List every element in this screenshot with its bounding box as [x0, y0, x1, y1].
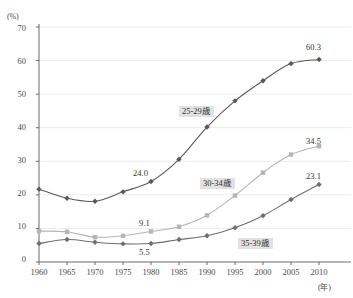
data-point [64, 237, 69, 242]
value-label-9-1: 9.1 [139, 219, 150, 228]
value-label-34-5: 34.5 [306, 137, 321, 146]
series-line-25-29歳 [39, 60, 319, 202]
data-point [177, 225, 181, 229]
data-point [204, 233, 209, 238]
data-point [316, 182, 321, 187]
data-point [64, 196, 69, 201]
value-label-60-3: 60.3 [306, 43, 321, 52]
chart-container: (%) (年) 70 60 50 40 30 20 10 0 1960 1965… [0, 0, 353, 298]
data-point [149, 229, 153, 233]
data-point [233, 193, 237, 197]
data-point [92, 199, 97, 204]
series-label-35-39: 35-39歳 [238, 238, 273, 249]
gridlines-group [39, 27, 351, 228]
data-point [289, 152, 293, 156]
data-point [288, 61, 293, 66]
data-point [316, 57, 321, 62]
data-point [120, 189, 125, 194]
value-label-24-0: 24.0 [133, 169, 148, 178]
data-point [92, 239, 97, 244]
data-point [205, 213, 209, 217]
data-point [288, 197, 293, 202]
data-point [37, 229, 41, 233]
value-label-23-1: 23.1 [306, 172, 321, 181]
data-point [261, 171, 265, 175]
data-point [93, 235, 97, 239]
data-point [176, 237, 181, 242]
series-layer [36, 57, 321, 247]
axis-lines-group [39, 24, 351, 262]
plot-area [0, 0, 353, 298]
data-point [36, 186, 41, 191]
data-point [260, 213, 265, 218]
value-label-5-5: 5.5 [139, 248, 150, 257]
data-point [148, 241, 153, 246]
data-point [232, 225, 237, 230]
data-point [120, 241, 125, 246]
data-point [148, 179, 153, 184]
data-point [36, 241, 41, 246]
data-point [65, 230, 69, 234]
axis-ticks-group [36, 27, 319, 265]
series-label-30-34: 30-34歳 [200, 178, 235, 189]
series-label-25-29: 25-29歳 [179, 106, 214, 117]
data-point [121, 234, 125, 238]
